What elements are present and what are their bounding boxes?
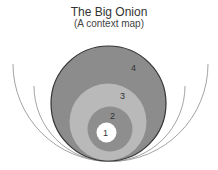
onion-diagram: 4 3 2 1: [0, 0, 218, 170]
layer-1-label: 1: [103, 128, 108, 138]
layer-2-label: 2: [110, 111, 115, 121]
layer-3-label: 3: [120, 91, 125, 101]
layer-4-label: 4: [131, 63, 136, 73]
